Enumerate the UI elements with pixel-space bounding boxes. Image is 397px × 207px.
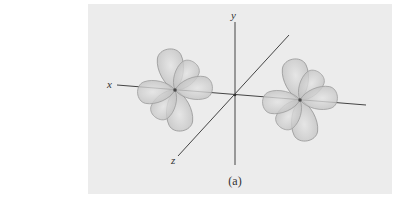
right-d-orbital: [262, 57, 339, 143]
figure-caption: (a): [228, 175, 241, 187]
left-d-orbital: [137, 47, 214, 133]
z-axis-label: z: [171, 155, 175, 166]
x-axis-label: x: [107, 79, 112, 90]
orbital-diagram: [0, 0, 397, 207]
y-axis-label: y: [231, 10, 236, 21]
origin-point: [234, 94, 237, 97]
